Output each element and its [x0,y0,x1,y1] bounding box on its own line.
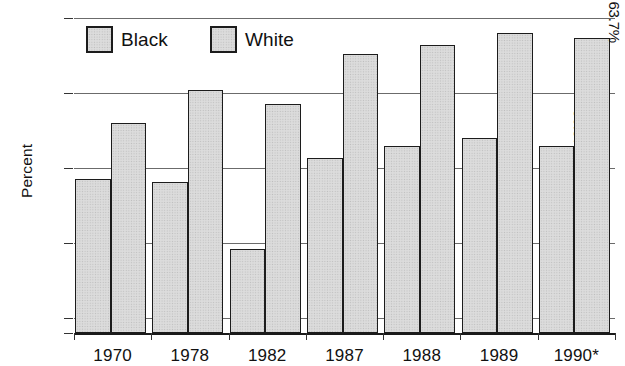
gridline [74,18,615,19]
x-tick-mark [74,333,75,340]
bar-black-1978 [152,182,188,334]
y-tick-mark [64,168,73,169]
chart-title-clipped [0,0,625,3]
x-tick-mark [151,333,152,340]
x-tick-mark [306,333,307,340]
bar-black-1970 [75,179,111,334]
bar-white-1978 [188,90,224,333]
legend: Black White [86,26,294,53]
legend-label-white: White [245,29,294,51]
bar-black-1990star: 56.5% [539,146,575,334]
bar-white-1990star: 63.7% [574,38,610,334]
x-tick-label: 1990* [531,346,621,366]
legend-swatch-white-icon [210,26,237,53]
y-axis-title: Percent [18,111,36,231]
plot-area: 65605550450 56.5%63.7% 19701978198219871… [74,18,615,333]
y-tick-mark [64,318,73,319]
bar-white-1982 [265,104,301,334]
y-tick-mark [64,333,73,334]
x-tick-mark [460,333,461,340]
legend-label-black: Black [121,29,168,51]
bar-white-1988 [420,45,456,333]
bar-black-1988 [384,146,420,334]
x-tick-mark [383,333,384,340]
legend-item-white: White [210,26,294,53]
bar-black-1987 [307,158,343,334]
bar-black-1989 [462,138,498,333]
y-tick-mark [64,18,73,19]
bar-white-1970 [111,123,147,333]
bar-white-1987 [343,54,379,333]
legend-item-black: Black [86,26,168,53]
y-tick-mark [64,93,73,94]
y-tick-mark [64,243,73,244]
x-tick-mark [615,333,616,340]
bar-white-1989 [497,33,533,333]
bar-black-1982 [230,249,266,333]
bar-value-label: 63.7% [606,1,623,43]
axis-baseline [74,333,615,335]
bar-chart: Percent 65605550450 56.5%63.7% 197019781… [0,0,625,366]
legend-swatch-black-icon [86,26,113,53]
x-tick-mark [538,333,539,340]
x-tick-mark [229,333,230,340]
